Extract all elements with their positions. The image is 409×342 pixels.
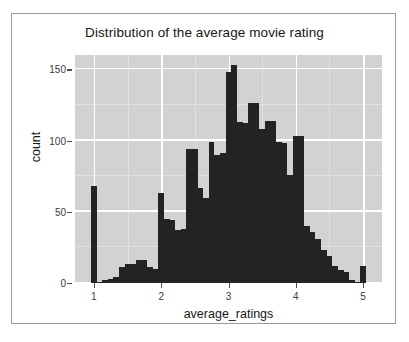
y-tick-mark bbox=[67, 212, 72, 213]
x-axis-ticks: 12345 bbox=[75, 291, 382, 307]
y-tick-label: 50 bbox=[55, 206, 66, 217]
x-tick-label: 4 bbox=[293, 291, 299, 302]
y-axis-label: count bbox=[29, 102, 43, 192]
histogram-bar bbox=[360, 266, 366, 283]
x-tick-label: 1 bbox=[91, 291, 97, 302]
y-tick-mark bbox=[67, 141, 72, 142]
x-tick-label: 3 bbox=[226, 291, 232, 302]
chart-figure: Distribution of the average movie rating… bbox=[0, 0, 409, 342]
y-tick-label: 150 bbox=[49, 64, 66, 75]
x-tick-label: 2 bbox=[158, 291, 164, 302]
y-tick-label: 100 bbox=[49, 135, 66, 146]
histogram-bars bbox=[75, 55, 382, 283]
x-tick-label: 5 bbox=[360, 291, 366, 302]
x-tick-mark bbox=[161, 283, 162, 288]
histogram-bar bbox=[91, 186, 97, 283]
x-tick-mark bbox=[94, 283, 95, 288]
x-tick-mark bbox=[229, 283, 230, 288]
chart-title: Distribution of the average movie rating bbox=[0, 25, 409, 40]
x-tick-mark bbox=[296, 283, 297, 288]
plot-panel bbox=[75, 55, 382, 283]
y-tick-mark bbox=[67, 69, 72, 70]
y-tick-mark bbox=[67, 283, 72, 284]
y-tick-label: 0 bbox=[60, 278, 66, 289]
x-axis-label: average_ratings bbox=[75, 307, 382, 321]
x-tick-mark bbox=[363, 283, 364, 288]
